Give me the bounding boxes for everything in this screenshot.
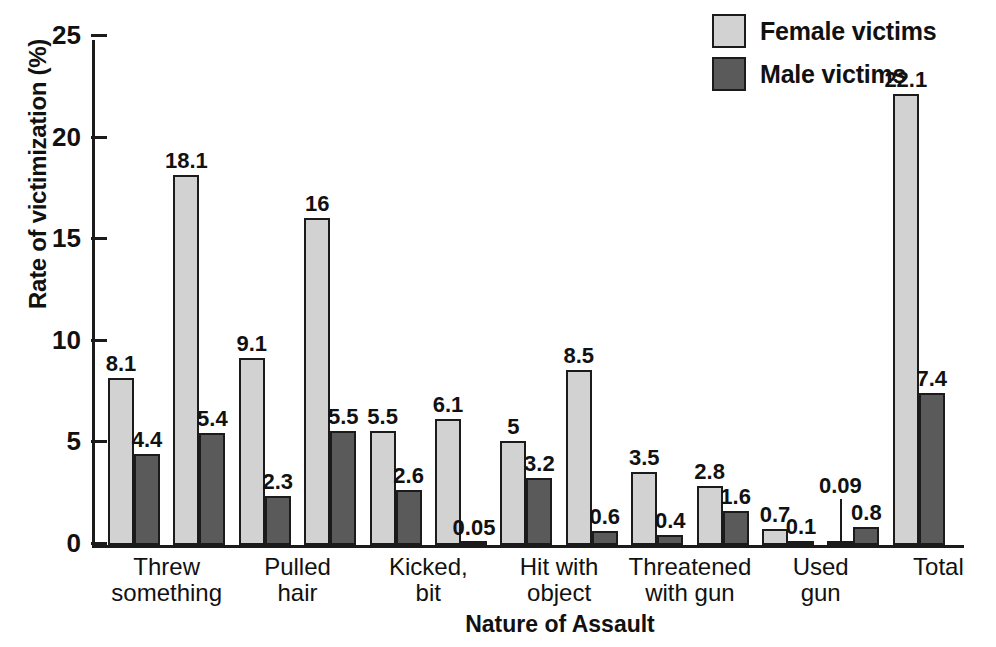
bar-male — [526, 478, 552, 545]
x-axis-category-label-line: gun — [793, 580, 849, 606]
bar-female — [697, 486, 723, 545]
y-axis-title: Rate of victimization (%) — [24, 0, 52, 384]
y-axis-tick-label: 20 — [52, 121, 81, 152]
bar-female — [631, 472, 657, 545]
bar-value-label: 3.5 — [629, 445, 660, 471]
bar-male — [265, 496, 291, 545]
bar-value-label: 5.4 — [197, 406, 228, 432]
bar-male — [592, 531, 618, 545]
bar-male — [330, 431, 356, 545]
bar-value-label: 2.6 — [393, 463, 424, 489]
bar-female — [893, 94, 919, 545]
bar-value-label: 2.3 — [263, 469, 294, 495]
y-axis-tick-label: 0 — [67, 528, 81, 559]
x-axis-title: Nature of Assault — [465, 611, 655, 638]
bar-male — [657, 535, 683, 545]
y-axis-tick: 25 — [91, 34, 107, 37]
bar-female — [173, 175, 199, 545]
bar-value-label: 7.4 — [917, 366, 948, 392]
bar-value-label: 0.05 — [453, 515, 496, 541]
bar-value-label: 5 — [507, 414, 519, 440]
x-axis-category-label-line: Total — [913, 554, 964, 580]
x-axis-category-label-line: something — [111, 580, 222, 606]
bar-female — [370, 431, 396, 545]
bar-male — [788, 541, 814, 545]
y-axis-tick-label: 10 — [52, 324, 81, 355]
x-axis-category-label-line: hair — [264, 580, 331, 606]
y-axis-tick-label: 15 — [52, 223, 81, 254]
bar-value-label: 3.2 — [524, 451, 555, 477]
bar-value-label: 0.1 — [786, 514, 817, 540]
y-axis-tick: 20 — [91, 136, 107, 139]
y-axis-tick: 10 — [91, 339, 107, 342]
bar-female — [304, 218, 330, 545]
x-axis-category-label: Hit withobject — [520, 554, 599, 606]
x-axis-category-label-line: Pulled — [264, 554, 331, 580]
x-axis-category-label-line: bit — [389, 580, 468, 606]
y-axis-line — [92, 40, 95, 548]
bar-female — [500, 441, 526, 545]
bar-male — [853, 527, 879, 545]
x-axis-category-label-line: Threw — [111, 554, 222, 580]
x-axis-category-label-line: Threatened — [629, 554, 752, 580]
bar-value-label: 22.1 — [884, 67, 927, 93]
x-axis-category-label: Threwsomething — [111, 554, 222, 606]
x-axis-category-label-line: Hit with — [520, 554, 599, 580]
bar-female — [566, 370, 592, 545]
bar-value-label: 1.6 — [720, 484, 751, 510]
bar-female — [239, 358, 265, 545]
bar-male — [199, 433, 225, 545]
bar-value-label: 8.1 — [106, 351, 137, 377]
bar-value-label: 5.5 — [367, 404, 398, 430]
bar-value-label: 0.09 — [819, 473, 862, 499]
bar-value-label: 0.6 — [590, 504, 621, 530]
bar-value-label: 0.4 — [655, 508, 686, 534]
bar-value-label: 16 — [305, 191, 329, 217]
x-axis-category-label-line: Used — [793, 554, 849, 580]
x-axis-category-label: Usedgun — [793, 554, 849, 606]
y-axis-tick: 0 — [91, 542, 107, 545]
bar-value-label: 6.1 — [433, 392, 464, 418]
bar-male — [461, 541, 487, 545]
bar-value-label: 8.5 — [564, 343, 595, 369]
value-label-leader-line — [840, 499, 842, 543]
plot-area: 0510152025 8.14.418.15.49.12.3165.55.52.… — [92, 40, 964, 548]
y-axis-tick: 5 — [91, 440, 107, 443]
bar-value-label: 5.5 — [328, 404, 359, 430]
x-axis-category-label: Threatenedwith gun — [629, 554, 752, 606]
bar-value-label: 0.8 — [851, 500, 882, 526]
x-axis-category-label: Pulledhair — [264, 554, 331, 606]
x-axis-category-label: Total — [913, 554, 964, 580]
bar-male — [919, 393, 945, 545]
bar-male — [396, 490, 422, 545]
bar-female — [108, 378, 134, 545]
x-axis-category-label-line: object — [520, 580, 599, 606]
y-axis-tick-label: 25 — [52, 20, 81, 51]
bar-value-label: 18.1 — [165, 148, 208, 174]
x-axis-category-label-line: Kicked, — [389, 554, 468, 580]
chart-figure: Female victims Male victims Rate of vict… — [0, 0, 996, 647]
bar-female — [762, 529, 788, 545]
x-axis-category-label-line: with gun — [629, 580, 752, 606]
bar-male — [723, 511, 749, 546]
bar-value-label: 4.4 — [132, 427, 163, 453]
bar-male — [134, 454, 160, 545]
bar-value-label: 2.8 — [694, 459, 725, 485]
x-axis-category-label: Kicked,bit — [389, 554, 468, 606]
y-axis-tick-label: 5 — [67, 426, 81, 457]
bar-value-label: 9.1 — [237, 331, 268, 357]
y-axis-tick: 15 — [91, 237, 107, 240]
x-axis-line — [92, 545, 964, 548]
